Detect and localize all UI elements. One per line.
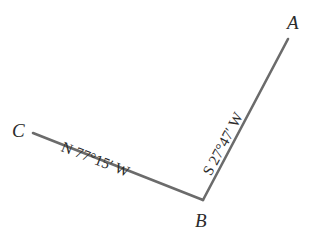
vertex-label-a: A xyxy=(287,13,299,32)
vertex-label-c: C xyxy=(12,121,25,140)
traverse-lines-svg xyxy=(0,0,321,243)
survey-diagram-canvas: C B A N 77°15′ W S 27°47′ W xyxy=(0,0,321,243)
vertex-label-b: B xyxy=(195,211,207,230)
line-segment-ba xyxy=(203,39,288,200)
